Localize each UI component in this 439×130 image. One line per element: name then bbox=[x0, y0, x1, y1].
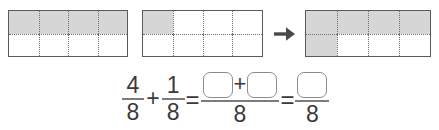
model-3-cell-8[interactable] bbox=[399, 34, 430, 57]
fraction-model-1 bbox=[8, 10, 128, 57]
model-2-cell-6[interactable] bbox=[173, 34, 203, 57]
term-1-numerator: 4 bbox=[122, 73, 145, 98]
model-2-cell-8[interactable] bbox=[232, 34, 262, 57]
fraction-term-2: 1 8 bbox=[162, 73, 185, 125]
model-3-cell-5[interactable] bbox=[306, 34, 337, 57]
model-3-cell-4[interactable] bbox=[399, 11, 430, 34]
model-2-cell-5[interactable] bbox=[143, 34, 173, 57]
answer-box-addend-1[interactable] bbox=[203, 72, 233, 98]
model-1-cell-7[interactable] bbox=[68, 34, 98, 57]
fraction-sum-expression: + 8 bbox=[201, 72, 280, 127]
model-1-cell-5[interactable] bbox=[9, 34, 39, 57]
fraction-model-3 bbox=[305, 10, 431, 57]
model-1-cell-6[interactable] bbox=[39, 34, 69, 57]
fraction-term-1: 4 8 bbox=[122, 73, 145, 125]
answer-box-result[interactable] bbox=[297, 72, 327, 98]
inline-plus-operator: + bbox=[233, 73, 248, 95]
model-2-cell-4[interactable] bbox=[232, 11, 262, 34]
model-3-cell-7[interactable] bbox=[368, 34, 399, 57]
equals-operator-1: = bbox=[185, 88, 201, 112]
model-2-cell-3[interactable] bbox=[203, 11, 233, 34]
term-1-denominator: 8 bbox=[122, 100, 145, 125]
model-3-cell-3[interactable] bbox=[368, 11, 399, 34]
model-3-cell-1[interactable] bbox=[306, 11, 337, 34]
model-3-cell-2[interactable] bbox=[337, 11, 368, 34]
fraction-result: 8 bbox=[295, 72, 329, 127]
result-numerator-group bbox=[295, 72, 329, 100]
plus-operator: + bbox=[144, 87, 161, 110]
model-3-cell-6[interactable] bbox=[337, 34, 368, 57]
answer-box-addend-2[interactable] bbox=[247, 72, 277, 98]
model-1-cell-1[interactable] bbox=[9, 11, 39, 34]
model-1-cell-8[interactable] bbox=[98, 34, 128, 57]
term-2-numerator: 1 bbox=[162, 73, 185, 98]
right-arrow-icon bbox=[272, 24, 298, 44]
model-1-cell-2[interactable] bbox=[39, 11, 69, 34]
result-denominator: 8 bbox=[301, 102, 324, 127]
sum-numerator-group: + bbox=[201, 72, 280, 100]
term-2-denominator: 8 bbox=[162, 100, 185, 125]
sum-denominator: 8 bbox=[229, 102, 252, 127]
fraction-models-row bbox=[0, 0, 439, 68]
model-2-cell-2[interactable] bbox=[173, 11, 203, 34]
fraction-equation: 4 8 + 1 8 = + 8 = 8 bbox=[0, 68, 439, 130]
equals-operator-2: = bbox=[279, 88, 295, 112]
model-2-cell-7[interactable] bbox=[203, 34, 233, 57]
model-1-cell-4[interactable] bbox=[98, 11, 128, 34]
fraction-model-2 bbox=[142, 10, 263, 57]
model-1-cell-3[interactable] bbox=[68, 11, 98, 34]
model-2-cell-1[interactable] bbox=[143, 11, 173, 34]
